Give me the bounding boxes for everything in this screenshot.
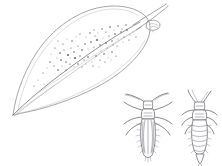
leaf-petiole-upper [133,4,166,25]
adult-leg-mid-right [155,117,172,124]
damaged-leaf [13,4,168,116]
larva-abdomen-tip [196,154,204,164]
adult-leg-hind-left [126,123,141,135]
leaf-petiole-tip [166,4,168,6]
leaf-tertiary-vein [17,84,56,112]
adult-leg-hind-right [155,123,170,135]
leaf-midrib-secondary [14,27,141,116]
larva-leg-mid-left [182,117,193,125]
stippled-feeding-damage [34,24,137,86]
adult-leg-fore-left [124,102,142,110]
larva-abdomen [192,120,208,155]
leaf-edge-inner-upper [18,9,139,110]
figure-root: Leaf with thrips feeding damage and two … [0,0,222,166]
larva-leg-mid-right [206,117,217,125]
adult-thrips [124,93,172,162]
adult-prothorax [141,109,154,119]
leaf-petiole-lower [136,6,168,30]
larva-thorax [192,110,206,120]
adult-leg-mid-left [124,117,141,124]
leaf-stipule-bud [145,20,160,32]
adult-leg-fore-right [154,102,172,110]
thrips-larva [182,90,217,166]
illustration-canvas [0,0,222,166]
